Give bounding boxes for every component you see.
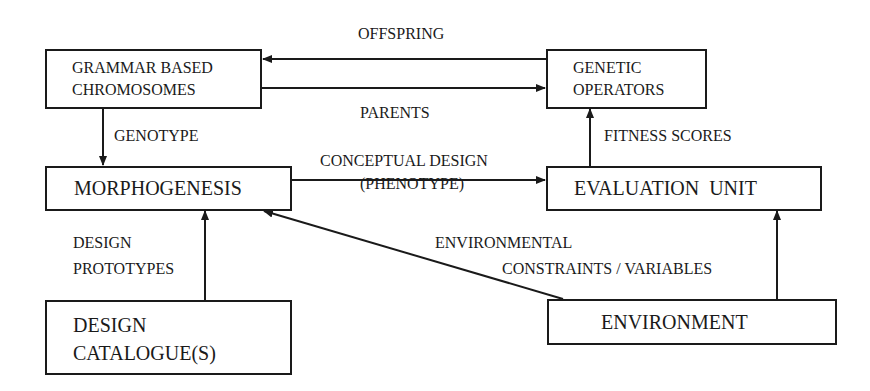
node-label: MORPHOGENESIS <box>74 177 242 200</box>
edge-label-parents: PARENTS <box>360 104 430 122</box>
node-genetic-operators: GENETIC OPERATORS <box>546 49 707 109</box>
node-label-line2: OPERATORS <box>573 81 664 99</box>
node-label-line1: GRAMMAR BASED <box>72 59 213 77</box>
edge-label-phenotype: (PHENOTYPE) <box>360 175 464 193</box>
edge-label-offspring: OFFSPRING <box>358 25 444 43</box>
environmental-constraints-arrow <box>264 211 563 299</box>
node-environment: ENVIRONMENT <box>547 299 837 345</box>
node-label-line1: GENETIC <box>573 59 641 77</box>
node-label: ENVIRONMENT <box>601 311 748 334</box>
edge-label-constraints-variables: CONSTRAINTS / VARIABLES <box>502 260 712 278</box>
node-morphogenesis: MORPHOGENESIS <box>45 166 292 211</box>
node-label-line1: DESIGN <box>73 314 146 337</box>
node-label-line2: CATALOGUE(S) <box>73 342 216 365</box>
node-evaluation-unit: EVALUATION UNIT <box>546 166 822 211</box>
node-label-line2: CHROMOSOMES <box>72 81 196 99</box>
edge-label-design-prototypes-line1: DESIGN <box>73 234 132 252</box>
edge-label-design-prototypes-line2: PROTOTYPES <box>73 260 174 278</box>
edge-label-environmental: ENVIRONMENTAL <box>435 234 572 252</box>
edge-label-fitness-scores: FITNESS SCORES <box>604 127 732 145</box>
edge-label-conceptual-design: CONCEPTUAL DESIGN <box>320 152 488 170</box>
node-design-catalogue: DESIGN CATALOGUE(S) <box>45 300 292 375</box>
node-label: EVALUATION UNIT <box>574 177 757 200</box>
node-grammar-based-chromosomes: GRAMMAR BASED CHROMOSOMES <box>45 49 262 109</box>
edge-label-genotype: GENOTYPE <box>114 127 198 145</box>
diagram-canvas: GRAMMAR BASED CHROMOSOMES GENETIC OPERAT… <box>0 0 870 391</box>
